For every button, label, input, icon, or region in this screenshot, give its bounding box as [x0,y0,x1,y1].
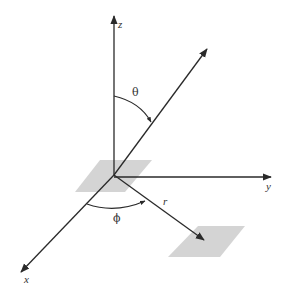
theta-arc [114,96,151,122]
phi-label: ϕ [113,212,121,225]
r-label: r [163,195,168,207]
y-axis-label: y [265,180,271,192]
r-projection-vector [114,175,204,240]
phi-arc [87,201,145,208]
radial-vector [114,49,207,175]
theta-label: θ [132,86,139,99]
z-axis-label: z [117,18,123,30]
spherical-coordinates-diagram: z y x θ ϕ r [0,0,287,290]
x-axis-label: x [23,273,29,285]
x-axis [21,175,114,272]
projection-patch [168,226,245,257]
